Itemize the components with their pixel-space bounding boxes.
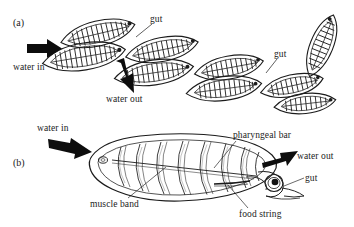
- label-gut-2: gut: [274, 49, 286, 59]
- zooid: [58, 13, 138, 54]
- gut-b-leader: [284, 178, 304, 186]
- water-out-arrow-a: [116, 58, 134, 93]
- panel-label-a: (a): [13, 17, 24, 28]
- diagram-canvas: [0, 0, 354, 227]
- food-string-leader: [228, 185, 248, 208]
- panel-label-b: (b): [13, 157, 25, 168]
- water-in-arrow-b: [48, 138, 92, 159]
- gut-coil-core: [272, 179, 279, 185]
- muscle-bands: [118, 141, 259, 195]
- food-string-line: [214, 181, 250, 184]
- label-water-in-a: water in: [13, 62, 45, 72]
- gut-2-leader: [266, 59, 277, 73]
- label-muscle-band: muscle band: [90, 199, 139, 209]
- label-gut-b: gut: [305, 173, 317, 183]
- gut-1-leader: [136, 24, 152, 37]
- label-pharyngeal-bar: pharyngeal bar: [233, 130, 291, 140]
- flow-arrows-b: [48, 138, 298, 168]
- zooid: [185, 72, 263, 105]
- label-gut-1: gut: [150, 14, 162, 24]
- label-food-string: food string: [239, 209, 282, 219]
- gut-dot: [190, 39, 195, 44]
- figure-salp-anatomy: (a) (b) gut gut water in water out water…: [0, 0, 354, 227]
- label-water-out-a: water out: [106, 94, 143, 104]
- water-in-arrow-a: [27, 39, 62, 58]
- label-water-out-b: water out: [297, 151, 334, 161]
- mouth-aperture: [99, 157, 108, 163]
- label-water-in-b: water in: [37, 123, 69, 133]
- zooid: [40, 37, 127, 77]
- panel-b-salp: [89, 134, 304, 208]
- zooid: [299, 11, 345, 81]
- panel-a-colony: [40, 11, 344, 117]
- water-out-arrow-b: [262, 151, 298, 168]
